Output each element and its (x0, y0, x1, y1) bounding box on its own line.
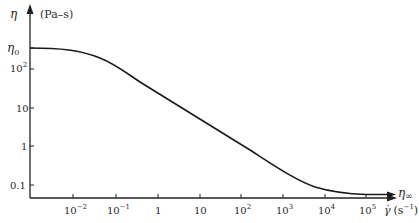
x-tick-label-0.1: 10−1 (107, 203, 130, 216)
x-tick-label-1: 1 (155, 205, 161, 216)
viscosity-chart: η (Pa–s) η0 102 10 1 0.1 10−2 10−1 1 10 … (0, 0, 419, 223)
eta-infinity-label: η∞ (398, 186, 413, 201)
y-axis-symbol: η (10, 7, 18, 21)
y-tick-label-1: 1 (21, 141, 27, 152)
y-axis-unit: (Pa–s) (40, 8, 73, 21)
y-tick-label-10: 10 (16, 103, 29, 114)
x-tick-label-100: 102 (234, 203, 251, 216)
x-tick-label-0.01: 10−2 (64, 203, 87, 216)
x-axis-title: γ̇(s−1) (384, 203, 418, 217)
eta-zero-label: η0 (7, 41, 19, 57)
viscosity-curve (30, 48, 388, 195)
y-tick-label-0.1: 0.1 (10, 180, 26, 191)
x-tick-label-1000: 103 (276, 203, 293, 216)
x-tick-label-10000: 104 (318, 203, 336, 216)
x-tick-label-100000: 105 (359, 203, 376, 216)
y-axis-arrow-icon (27, 4, 34, 14)
y-tick-label-100: 102 (10, 61, 27, 74)
x-tick-label-10: 10 (194, 205, 207, 216)
